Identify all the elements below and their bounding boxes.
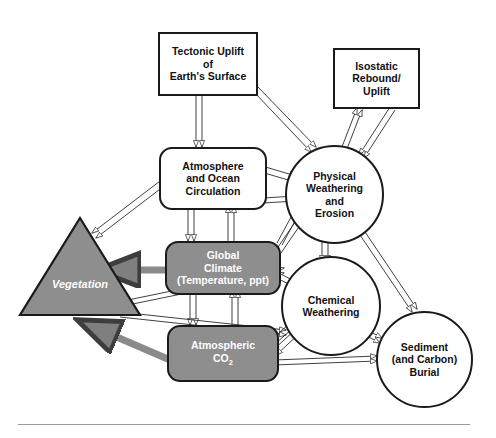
node-isostatic-rebound-label: Isostatic Rebound/ Uplift xyxy=(335,60,418,97)
edge-circulation-to-climate xyxy=(188,206,194,241)
node-vegetation-label: Vegetation xyxy=(18,278,142,290)
edge-co2-to-sediment-burial xyxy=(274,356,377,365)
node-isostatic-rebound[interactable]: Isostatic Rebound/ Uplift xyxy=(333,48,420,109)
node-vegetation[interactable]: Vegetation xyxy=(18,216,142,317)
node-physical-weathering-erosion[interactable]: Physical Weathering and Erosion xyxy=(285,145,384,244)
node-global-climate-label: Global Climate (Temperature, ppt) xyxy=(167,249,279,286)
footer-divider xyxy=(18,424,470,425)
node-atmospheric-co2-formula-sub: 2 xyxy=(229,358,233,367)
node-chemical-weathering-label: Chemical Weathering xyxy=(283,294,379,319)
node-tectonic-uplift[interactable]: Tectonic Uplift of Earth's Surface xyxy=(158,32,258,96)
node-atmosphere-ocean-circulation-label: Atmosphere and Ocean Circulation xyxy=(161,160,265,197)
node-sediment-carbon-burial[interactable]: Sediment (and Carbon) Burial xyxy=(376,311,473,408)
node-atmospheric-co2[interactable]: AtmosphericCO2 xyxy=(167,325,279,382)
edge-tectonic-to-circulation xyxy=(196,93,202,147)
node-sediment-carbon-burial-label: Sediment (and Carbon) Burial xyxy=(378,341,471,378)
edge-isostatic-to-physical-weathering-down xyxy=(359,107,395,158)
node-atmospheric-co2-formula-base: CO xyxy=(213,352,229,364)
diagram-canvas: Tectonic Uplift of Earth's Surface Isost… xyxy=(0,0,496,438)
node-physical-weathering-erosion-label: Physical Weathering and Erosion xyxy=(287,170,382,220)
edge-tectonic-to-physical-weathering xyxy=(254,87,316,152)
node-atmosphere-ocean-circulation[interactable]: Atmosphere and Ocean Circulation xyxy=(159,147,267,210)
node-atmospheric-co2-label: AtmosphericCO2 xyxy=(169,339,277,367)
node-global-climate[interactable]: Global Climate (Temperature, ppt) xyxy=(165,241,281,295)
node-chemical-weathering[interactable]: Chemical Weathering xyxy=(281,256,381,356)
node-atmospheric-co2-label-main: Atmospheric xyxy=(191,339,255,351)
edge-co2-to-climate xyxy=(232,291,238,325)
vegetation-triangle-shape xyxy=(18,216,142,317)
edge-co2-to-vegetation-thick xyxy=(82,322,170,360)
node-tectonic-uplift-label: Tectonic Uplift of Earth's Surface xyxy=(160,45,256,82)
edge-climate-to-circulation xyxy=(228,206,234,241)
